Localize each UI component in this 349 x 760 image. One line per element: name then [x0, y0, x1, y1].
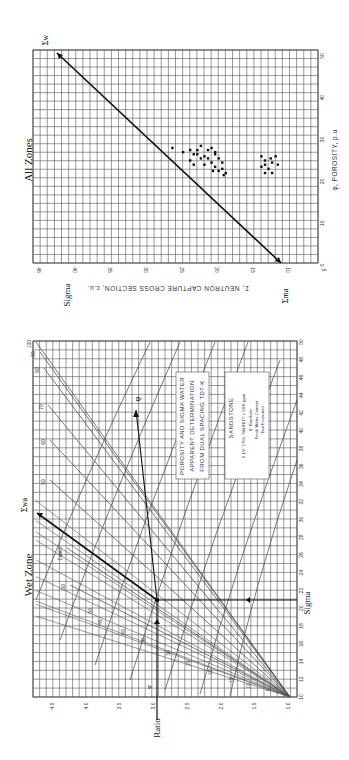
conditions-box: SANDSTONE 5 1/2" CSG, SALINITY ≥ 50 K pp… — [225, 372, 269, 479]
svg-text:50: 50 — [88, 608, 93, 614]
svg-text:42: 42 — [298, 410, 304, 416]
svg-text:10: 10 — [246, 683, 251, 689]
arrow-head-icon — [133, 410, 139, 417]
all-zones-chart: 51015202530354045 01020304050 All Zones … — [0, 0, 349, 330]
data-point — [277, 163, 279, 165]
svg-text:30: 30 — [166, 650, 171, 656]
data-point — [274, 155, 276, 157]
svg-text:16: 16 — [298, 641, 304, 647]
svg-text:30: 30 — [143, 267, 149, 273]
wet-zone-plot: 304050607080901005101520253035404550 101… — [0, 330, 349, 760]
svg-text:45: 45 — [36, 267, 42, 273]
data-point — [260, 155, 262, 157]
sigma-axis-ticks: 1012141618202224262830323436384042444648… — [298, 339, 304, 700]
svg-text:70: 70 — [39, 404, 44, 410]
wet-zone-title: Wet Zone — [22, 553, 34, 596]
svg-text:28: 28 — [298, 534, 304, 540]
svg-text:3.0: 3.0 — [150, 702, 156, 709]
sigma-axis-ticks: 51015202530354045 — [36, 267, 327, 273]
data-point — [225, 172, 227, 174]
all-zones-plot: 51015202530354045 01020304050 All Zones … — [0, 0, 349, 330]
sandstone-label: SANDSTONE — [228, 398, 234, 439]
title-box: POROSITY AND SIGMA WATER APPARENT DETERM… — [176, 372, 209, 479]
svg-text:3.5: 3.5 — [116, 702, 122, 709]
data-point — [267, 168, 269, 170]
wet-zone-chart: 304050607080901005101520253035404550 101… — [0, 330, 349, 760]
ratio-label: Ratio — [152, 718, 162, 738]
data-point — [221, 161, 223, 163]
svg-text:15: 15 — [250, 267, 256, 273]
data-point — [264, 159, 266, 161]
condition-line-3: Fresh Water Cement — [254, 400, 259, 440]
svg-text:50: 50 — [319, 53, 325, 59]
svg-text:90: 90 — [31, 351, 36, 357]
svg-text:44: 44 — [298, 392, 304, 398]
svg-text:20: 20 — [319, 178, 325, 184]
sigma-wa-label: Σwa — [20, 498, 29, 512]
svg-text:26: 26 — [298, 552, 304, 558]
svg-text:30: 30 — [298, 517, 304, 523]
svg-text:12: 12 — [298, 676, 304, 682]
condition-line-1: 5 1/2" CSG, SALINITY ≥ 50 K ppm — [241, 393, 246, 458]
svg-text:0: 0 — [319, 263, 325, 266]
svg-text:2.5: 2.5 — [184, 702, 190, 709]
phi-projection — [136, 410, 157, 600]
svg-text:4.0: 4.0 — [83, 702, 89, 709]
svg-text:35: 35 — [107, 267, 113, 273]
data-point — [222, 174, 224, 176]
sigma-ma-label: Σma — [281, 288, 290, 303]
data-point — [260, 166, 262, 168]
svg-text:10: 10 — [298, 694, 304, 700]
sigma-wa-curve-label: Σwa — [58, 551, 63, 560]
data-point — [200, 157, 202, 159]
box-title-line-2: APPARENT DETERMINATION — [189, 380, 195, 471]
all-zones-title: All Zones — [22, 138, 34, 182]
data-point — [217, 157, 219, 159]
porosity-axis-title: φ, POROSITY, p.u — [331, 129, 339, 190]
svg-text:40: 40 — [121, 629, 126, 635]
svg-text:14: 14 — [298, 659, 304, 665]
svg-text:1.5: 1.5 — [251, 702, 257, 709]
svg-text:32: 32 — [298, 499, 304, 505]
phi-curve-label: φ — [146, 685, 152, 689]
data-point — [264, 163, 266, 165]
svg-text:45: 45 — [98, 619, 103, 625]
svg-text:25: 25 — [186, 660, 191, 666]
svg-text:10: 10 — [319, 220, 325, 226]
data-point — [189, 149, 191, 151]
data-point — [193, 153, 195, 155]
condition-line-4: Tool Eccentred — [260, 405, 265, 433]
data-point — [193, 163, 195, 165]
sigma-label: Sigma — [62, 283, 72, 306]
data-point — [207, 149, 209, 151]
svg-text:80: 80 — [35, 367, 40, 373]
svg-text:40: 40 — [319, 95, 325, 101]
data-point — [217, 170, 219, 172]
ratio-axis-ticks: 1.01.52.02.53.03.54.04.5 — [49, 702, 291, 709]
data-point — [214, 166, 216, 168]
svg-text:40: 40 — [72, 267, 78, 273]
svg-text:60: 60 — [41, 439, 46, 445]
data-point — [270, 157, 272, 159]
data-point — [203, 155, 205, 157]
svg-text:40: 40 — [298, 428, 304, 434]
box-title-line-3: FROM DUAL SPACING TDT-K — [199, 380, 205, 471]
svg-text:34: 34 — [298, 481, 304, 487]
data-point — [200, 145, 202, 147]
data-point — [212, 170, 214, 172]
data-point — [214, 153, 216, 155]
svg-text:36: 36 — [298, 463, 304, 469]
svg-text:48: 48 — [298, 357, 304, 363]
sigma-w-label: Σw — [41, 35, 50, 46]
data-point — [203, 163, 205, 165]
data-point — [171, 147, 173, 149]
sigma-wa-projection — [37, 513, 157, 600]
data-point — [207, 157, 209, 159]
data-point — [182, 151, 184, 153]
svg-text:1.0: 1.0 — [285, 702, 291, 709]
data-point — [210, 147, 212, 149]
svg-text:50: 50 — [41, 479, 46, 485]
data-point — [189, 159, 191, 161]
svg-text:10: 10 — [285, 267, 291, 273]
data-point — [196, 153, 198, 155]
